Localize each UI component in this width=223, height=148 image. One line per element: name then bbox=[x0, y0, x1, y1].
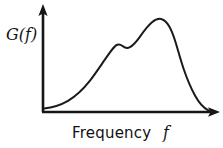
x-axis-variable-label: f bbox=[162, 123, 172, 142]
figure-container: G(f) Frequency f bbox=[0, 0, 223, 148]
y-axis-label: G(f) bbox=[6, 25, 37, 44]
x-axis-label: Frequency bbox=[72, 124, 151, 142]
spectral-density-curve bbox=[44, 19, 213, 112]
spectral-density-plot: G(f) Frequency f bbox=[0, 0, 223, 148]
